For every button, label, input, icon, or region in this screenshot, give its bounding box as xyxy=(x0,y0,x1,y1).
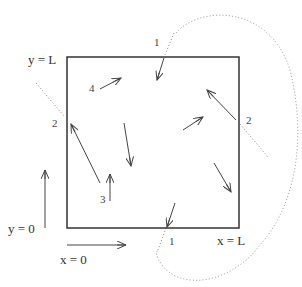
left-crossing-dotted xyxy=(36,83,64,116)
particle-2-left-arrow xyxy=(71,124,100,183)
label-x-equals-0: x = 0 xyxy=(60,253,87,266)
label-particle-3: 3 xyxy=(100,194,106,205)
label-x-equals-L: x = L xyxy=(217,234,245,247)
particle-lower-right-arrow xyxy=(214,163,231,192)
label-y-equals-L: y = L xyxy=(28,53,56,66)
label-crossing-1-bottom: 1 xyxy=(169,236,175,247)
label-particle-4: 4 xyxy=(89,83,95,94)
diagram-canvas xyxy=(0,0,302,287)
right-crossing-dotted xyxy=(240,124,268,157)
particle-4-arrow xyxy=(100,78,121,89)
label-y-equals-0: y = 0 xyxy=(8,222,35,235)
label-crossing-1-top: 1 xyxy=(154,37,160,48)
particle-center-arrow xyxy=(124,123,131,166)
bottom-crossing-dotted xyxy=(158,228,166,250)
label-crossing-2-left: 2 xyxy=(52,118,58,129)
particle-small-right-arrow xyxy=(183,117,203,130)
particle-1-top-arrow xyxy=(157,58,164,80)
particle-2-right-arrow xyxy=(207,90,236,120)
label-crossing-2-right: 2 xyxy=(246,115,252,126)
top-crossing-dotted xyxy=(165,33,174,55)
particle-1-bottom-arrow xyxy=(167,203,175,227)
